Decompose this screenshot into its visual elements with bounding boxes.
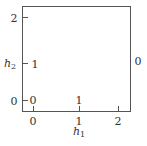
x-axis-label: h1 — [73, 126, 85, 140]
y-tick-0 — [22, 100, 28, 101]
x-tick-1 — [79, 106, 80, 111]
x-tick-label-0: 0 — [30, 116, 37, 127]
x-axis-label-sub: 1 — [80, 130, 85, 139]
value-right: 0 — [135, 56, 142, 67]
x-tick-2 — [118, 106, 119, 111]
x-tick-0 — [33, 106, 34, 111]
y-axis-label: h2 — [4, 58, 16, 72]
y-axis-label-sub: 2 — [11, 62, 16, 71]
y-tick-1 — [22, 63, 28, 64]
x-tick-label-2: 2 — [115, 116, 122, 127]
value-0-0: 0 — [30, 95, 37, 106]
value-0-1: 1 — [32, 59, 39, 70]
y-tick-label-0: 0 — [11, 96, 18, 107]
y-tick-2 — [22, 17, 28, 18]
value-1-0: 1 — [76, 95, 83, 106]
y-tick-label-2: 2 — [11, 13, 18, 24]
